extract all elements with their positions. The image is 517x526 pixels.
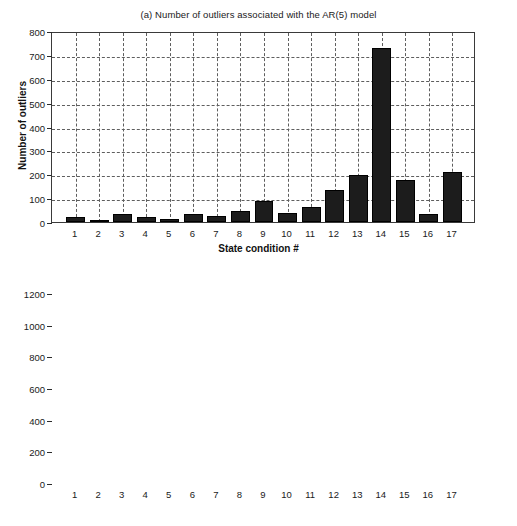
bar [372, 48, 391, 222]
bar [137, 217, 156, 222]
y-axis-tick-mark [47, 80, 52, 81]
y-axis-tick-label: 500 [3, 98, 45, 109]
y-axis-tick-mark [47, 56, 52, 57]
y-axis-tick-mark [47, 104, 52, 105]
y-axis-tick-label: 600 [3, 74, 45, 85]
bar [443, 172, 462, 222]
bar-series-a [52, 33, 474, 222]
chart-panel-a: (a) Number of outliers associated with t… [0, 0, 517, 263]
y-axis-tick-label: 400 [3, 415, 45, 426]
chart-panel-b: (b) Number of outliers associated with t… [0, 263, 517, 526]
y-axis-tick-label: 700 [3, 50, 45, 61]
bar [184, 214, 203, 222]
bar [349, 175, 368, 222]
bar [278, 213, 297, 222]
bar [396, 180, 415, 222]
y-axis-tick-mark [47, 357, 52, 358]
y-axis-tick-label: 300 [3, 146, 45, 157]
y-axis-tick-label: 0 [3, 218, 45, 229]
y-axis-tick-mark [47, 421, 52, 422]
bar [160, 219, 179, 222]
bar [113, 214, 132, 222]
y-axis-tick-mark [47, 151, 52, 152]
bar [66, 217, 85, 222]
bar [325, 190, 344, 222]
chart-title-a: (a) Number of outliers associated with t… [0, 9, 517, 20]
y-axis-tick-mark [47, 175, 52, 176]
y-axis-tick-mark [47, 294, 52, 295]
y-axis-tick-label: 100 [3, 194, 45, 205]
x-axis-tick-label: 17 [436, 489, 466, 500]
y-axis-tick-mark [47, 199, 52, 200]
bar [302, 207, 321, 222]
y-axis-tick-mark [47, 484, 52, 485]
y-axis-tick-mark [47, 223, 52, 224]
y-axis-tick-label: 1000 [3, 320, 45, 331]
y-axis-tick-label: 800 [3, 352, 45, 363]
x-axis-tick-label: 17 [436, 228, 466, 239]
y-axis-tick-label: 1200 [3, 289, 45, 300]
y-axis-tick-mark [47, 389, 52, 390]
y-axis-tick-label: 200 [3, 447, 45, 458]
x-axis-label-a: State condition # [0, 243, 517, 254]
figure-container: (a) Number of outliers associated with t… [0, 0, 517, 526]
bar [419, 214, 438, 222]
y-axis-tick-mark [47, 32, 52, 33]
bar [90, 220, 109, 222]
bar [231, 211, 250, 222]
y-axis-tick-mark [47, 326, 52, 327]
plot-area-a [51, 32, 475, 223]
bar [207, 216, 226, 222]
y-axis-tick-label: 200 [3, 170, 45, 181]
y-axis-tick-mark [47, 452, 52, 453]
y-axis-tick-label: 600 [3, 384, 45, 395]
y-axis-tick-mark [47, 128, 52, 129]
y-axis-tick-label: 400 [3, 122, 45, 133]
bar [255, 201, 274, 222]
y-axis-tick-label: 800 [3, 27, 45, 38]
y-axis-tick-label: 0 [3, 479, 45, 490]
